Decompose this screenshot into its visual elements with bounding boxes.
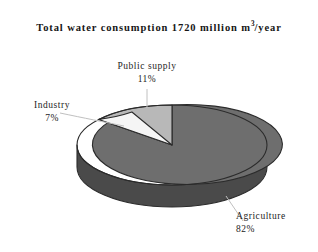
label-public-supply-percent: 11%: [97, 73, 197, 86]
label-industry-name: Industry: [14, 99, 90, 112]
label-agriculture-percent: 82%: [236, 223, 316, 236]
label-public-supply: Public supply 11%: [97, 60, 197, 85]
pie-chart-figure: Total water consumption 1720 million m3/…: [0, 0, 318, 252]
label-agriculture-name: Agriculture: [236, 210, 316, 223]
label-industry: Industry 7%: [14, 99, 90, 124]
label-public-supply-name: Public supply: [97, 60, 197, 73]
label-industry-percent: 7%: [14, 112, 90, 125]
pie-top-face: [92, 104, 282, 184]
label-agriculture: Agriculture 82%: [236, 210, 316, 235]
